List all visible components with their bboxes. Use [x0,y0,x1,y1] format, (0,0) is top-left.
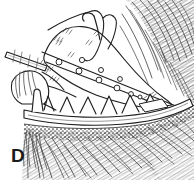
pore [96,77,102,83]
pore [56,59,62,65]
figure-panel: D [0,0,194,180]
panel-label-d: D [11,146,25,165]
pore [76,68,82,74]
pore [114,85,120,91]
pore [79,57,84,62]
barbel-rod [5,50,47,71]
illustration-canvas [0,0,194,180]
pore [99,68,104,73]
pore [138,95,142,99]
pore [118,77,123,82]
